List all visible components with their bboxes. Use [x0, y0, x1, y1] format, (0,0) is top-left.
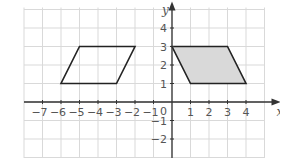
x-tick-label: −4: [87, 106, 103, 119]
origin-label: 0: [160, 105, 167, 118]
y-tick-label: −2: [151, 133, 167, 146]
x-axis-label: x: [277, 105, 281, 119]
x-tick-label: −2: [124, 106, 140, 119]
x-tick-label: 4: [243, 106, 250, 119]
y-tick-label: 1: [160, 78, 167, 91]
tick-labels: −7−6−5−4−3−2−11234−2−112340xy: [31, 3, 280, 147]
y-tick-label: 4: [160, 22, 167, 35]
y-tick-label: 2: [160, 59, 167, 72]
y-tick-label: 3: [160, 41, 167, 54]
x-tick-label: −7: [31, 106, 47, 119]
x-tick-label: 2: [206, 106, 213, 119]
x-tick-label: 1: [187, 106, 194, 119]
shaded-parallelogram: [172, 47, 246, 84]
x-tick-label: −3: [105, 106, 121, 119]
coordinate-grid: −7−6−5−4−3−2−11234−2−112340xy: [0, 0, 280, 165]
y-axis-arrow-icon: [169, 2, 176, 11]
x-tick-label: −6: [50, 106, 66, 119]
y-axis-label: y: [161, 3, 169, 17]
x-tick-label: 3: [224, 106, 231, 119]
x-tick-label: −5: [68, 106, 84, 119]
